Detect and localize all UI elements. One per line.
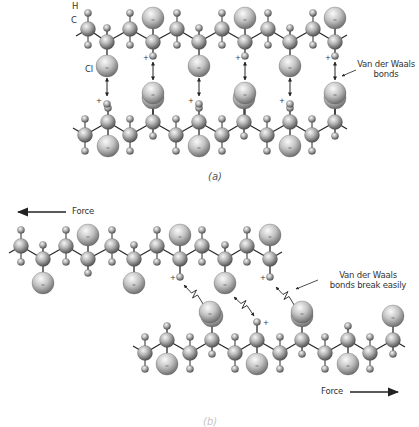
chlorine-atom xyxy=(234,82,256,104)
carbon-atom xyxy=(261,22,276,37)
hydrogen-atom xyxy=(173,41,180,48)
hydrogen-atom xyxy=(321,365,328,372)
chlorine-atom xyxy=(156,353,178,375)
hydrogen-atom xyxy=(309,41,316,48)
hydrogen-atom xyxy=(276,333,283,340)
plus-charge-icon: + xyxy=(170,274,176,282)
hydrogen-atom xyxy=(108,226,115,233)
broken-vdw-bond-icon xyxy=(276,287,296,308)
hydrogen-atom xyxy=(81,147,88,154)
carbon-atom xyxy=(78,128,93,143)
callout-break-line1: Van der Waals xyxy=(318,270,418,280)
hydrogen-atom xyxy=(366,333,373,340)
hydrogen-atom xyxy=(126,147,133,154)
hydrogen-atom xyxy=(240,132,247,139)
hydrogen-atom xyxy=(172,115,179,122)
panel-a-label: (a) xyxy=(208,171,222,182)
plus-charge-icon: + xyxy=(188,97,194,105)
carbon-atom xyxy=(283,115,298,130)
hydrogen-atom xyxy=(84,9,91,16)
carbon-atom xyxy=(328,35,343,50)
hydrogen-atom xyxy=(108,258,115,265)
hydrogen-atom xyxy=(218,115,225,122)
hydrogen-atom xyxy=(253,318,260,325)
carbon-atom xyxy=(101,115,116,130)
carbon-atom xyxy=(123,22,138,37)
carbon-atom xyxy=(305,128,320,143)
hydrogen-atom xyxy=(39,241,46,248)
chlorine-atom xyxy=(32,272,54,294)
hydrogen-atom xyxy=(308,147,315,154)
hydrogen-atom xyxy=(126,115,133,122)
carbon-atom xyxy=(215,128,230,143)
carbon-atom xyxy=(228,346,243,361)
carbon-atom xyxy=(205,333,220,348)
carbon-atom xyxy=(138,346,153,361)
hydrogen-atom xyxy=(126,41,133,48)
label-hydrogen: H xyxy=(72,1,78,11)
carbon-atom xyxy=(192,115,207,130)
carbon-atom xyxy=(14,239,29,254)
hydrogen-atom xyxy=(141,365,148,372)
hydrogen-atom xyxy=(195,100,202,107)
hydrogen-atom xyxy=(163,322,170,329)
plus-charge-icon: + xyxy=(263,319,269,327)
hydrogen-atom xyxy=(231,333,238,340)
atom-layer: +++++++++ xyxy=(14,7,405,375)
chlorine-atom xyxy=(259,224,281,246)
carbon-atom xyxy=(105,239,120,254)
panel-b-label: (b) xyxy=(203,416,217,427)
carbon-atom xyxy=(240,239,255,254)
broken-vdw-bond-icon xyxy=(184,285,205,307)
hydrogen-atom xyxy=(130,241,137,248)
chlorine-atom xyxy=(324,82,346,104)
carbon-atom xyxy=(81,252,96,267)
chlorine-atom xyxy=(188,135,210,157)
carbon-atom xyxy=(318,346,333,361)
hydrogen-atom xyxy=(243,258,250,265)
hydrogen-atom xyxy=(389,350,396,357)
carbon-atom xyxy=(386,333,401,348)
plus-charge-icon: + xyxy=(279,97,285,105)
chlorine-atom xyxy=(97,135,119,157)
hydrogen-atom xyxy=(149,132,156,139)
hydrogen-atom xyxy=(308,115,315,122)
hydrogen-atom xyxy=(198,226,205,233)
chlorine-atom xyxy=(279,55,301,77)
hydrogen-atom xyxy=(331,132,338,139)
carbon-atom xyxy=(328,115,343,130)
hydrogen-atom xyxy=(309,9,316,16)
chlorine-atom xyxy=(123,272,145,294)
carbon-atom xyxy=(183,346,198,361)
hydrogen-atom xyxy=(186,333,193,340)
chlorine-atom xyxy=(246,353,268,375)
carbon-atom xyxy=(218,252,233,267)
hydrogen-atom xyxy=(153,226,160,233)
callout-break-line2: bonds break easily xyxy=(318,280,418,290)
chlorine-atom xyxy=(234,7,256,29)
carbon-atom xyxy=(250,333,265,348)
chlorine-atom xyxy=(324,7,346,29)
chlorine-atom xyxy=(142,82,164,104)
chlorine-atom xyxy=(96,55,118,77)
carbon-atom xyxy=(36,252,51,267)
plus-charge-icon: + xyxy=(260,274,266,282)
plus-charge-icon: + xyxy=(235,54,241,62)
broken-vdw-bond-icon xyxy=(234,297,254,316)
label-carbon: C xyxy=(71,15,77,25)
plus-charge-icon: + xyxy=(325,54,331,62)
callout-vdw-line2: bonds xyxy=(352,69,419,79)
carbon-atom xyxy=(283,35,298,50)
callout-vdw-break: Van der Waals bonds break easily xyxy=(318,270,418,290)
hydrogen-atom xyxy=(241,52,248,59)
hydrogen-atom xyxy=(218,147,225,154)
hydrogen-atom xyxy=(103,24,110,31)
carbon-atom xyxy=(306,22,321,37)
carbon-atom xyxy=(150,239,165,254)
carbon-atom xyxy=(263,252,278,267)
hydrogen-atom xyxy=(153,258,160,265)
hydrogen-atom xyxy=(221,241,228,248)
label-chlorine: Cl xyxy=(85,64,93,74)
carbon-atom xyxy=(123,128,138,143)
carbon-atom xyxy=(81,22,96,37)
